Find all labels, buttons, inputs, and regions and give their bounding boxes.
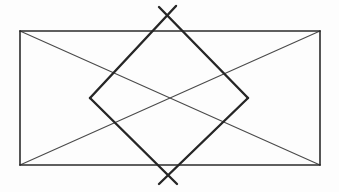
diamond-edge-bottom-apex-to-left	[90, 98, 177, 184]
diamond-edge-right-to-bottom-apex	[159, 98, 248, 184]
diamond-edge-left-to-top-apex	[90, 6, 176, 98]
figure-svg	[0, 0, 339, 192]
diamond-edge-top-apex-to-right	[159, 7, 248, 98]
inscribed-rotated-square-group	[90, 6, 248, 184]
rectangle-diagonals-group	[20, 31, 320, 165]
figure-canvas	[0, 0, 339, 192]
